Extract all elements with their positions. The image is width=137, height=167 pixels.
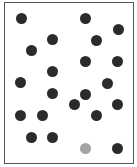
- dot[interactable]: [37, 110, 48, 121]
- dot[interactable]: [80, 13, 91, 24]
- dot[interactable]: [47, 34, 58, 45]
- dot[interactable]: [91, 35, 102, 46]
- dot[interactable]: [26, 132, 37, 143]
- dot[interactable]: [26, 45, 37, 56]
- dot[interactable]: [47, 88, 58, 99]
- dot-highlighted[interactable]: [80, 143, 91, 154]
- dot[interactable]: [47, 132, 58, 143]
- dot[interactable]: [80, 89, 91, 100]
- dot[interactable]: [80, 56, 91, 67]
- dot[interactable]: [113, 24, 124, 35]
- dot[interactable]: [69, 99, 80, 110]
- dot[interactable]: [91, 110, 102, 121]
- dot[interactable]: [102, 78, 113, 89]
- dot[interactable]: [15, 110, 26, 121]
- dot[interactable]: [112, 99, 123, 110]
- dot[interactable]: [15, 77, 26, 88]
- dot[interactable]: [16, 13, 27, 24]
- dot[interactable]: [112, 56, 123, 67]
- dot[interactable]: [47, 66, 58, 77]
- dot[interactable]: [112, 143, 123, 154]
